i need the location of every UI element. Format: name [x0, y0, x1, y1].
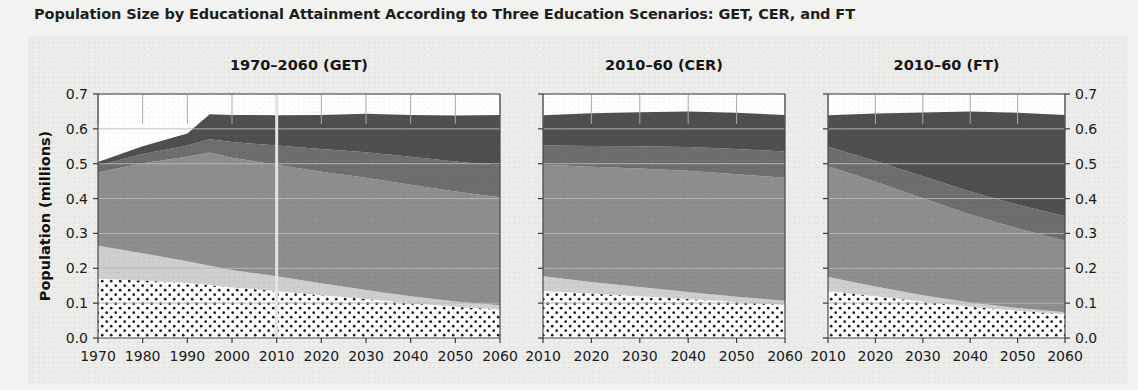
x-tick-label: 1990: [170, 348, 206, 364]
y-tick-label-right: 0.6: [1075, 121, 1097, 137]
panel-ft-title: 2010–60 (FT): [894, 57, 1000, 73]
y-tick-label-right: 0.5: [1075, 156, 1097, 172]
panel-cer-title: 2010–60 (CER): [605, 57, 723, 73]
panel-cer-group: 2010202020302040205020602010–60 (CER): [525, 57, 803, 364]
x-tick-label: 2040: [670, 348, 706, 364]
x-tick-label: 2060: [767, 348, 803, 364]
x-tick-label: 2060: [482, 348, 518, 364]
x-tick-label: 2040: [952, 348, 988, 364]
figure-title: Population Size by Educational Attainmen…: [34, 6, 855, 22]
y-tick-label-right: 0.2: [1075, 260, 1097, 276]
panel-get-group: 1970198019902000201020202030204020502060…: [80, 57, 518, 364]
y-tick-label-left: 0.1: [66, 295, 88, 311]
x-tick-label: 2060: [1047, 348, 1083, 364]
panel-cer-band-tertiary: [543, 111, 785, 151]
x-tick-label: 2000: [214, 348, 250, 364]
y-tick-label-left: 0.3: [66, 225, 88, 241]
x-tick-label: 2010: [259, 348, 295, 364]
y-tick-label-right: 0.4: [1075, 191, 1097, 207]
y-tick-label-right: 0.1: [1075, 295, 1097, 311]
figure-root: Population Size by Educational Attainmen…: [0, 0, 1138, 390]
x-tick-label: 2020: [574, 348, 610, 364]
x-tick-label: 1980: [125, 348, 161, 364]
y-tick-label-left: 0.2: [66, 260, 88, 276]
x-tick-label: 2040: [393, 348, 429, 364]
panel-ft-group: 2010202020302040205020602010–60 (FT): [810, 57, 1083, 364]
x-tick-label: 2030: [622, 348, 658, 364]
x-tick-label: 1970: [80, 348, 116, 364]
y-tick-label-left: 0.0: [66, 330, 88, 346]
chart-surface: 1970198019902000201020202030204020502060…: [28, 36, 1128, 384]
y-tick-label-left: 0.5: [66, 156, 88, 172]
x-tick-label: 2010: [525, 348, 561, 364]
x-tick-label: 2030: [348, 348, 384, 364]
y-tick-label-left: 0.4: [66, 191, 88, 207]
x-tick-label: 2050: [1000, 348, 1036, 364]
x-tick-label: 2050: [438, 348, 474, 364]
x-tick-label: 2020: [858, 348, 894, 364]
x-tick-label: 2020: [304, 348, 340, 364]
stacked-area-chart: 1970198019902000201020202030204020502060…: [28, 36, 1128, 384]
y-tick-label-right: 0.7: [1075, 86, 1097, 102]
panel-get-title: 1970–2060 (GET): [230, 57, 368, 73]
y-tick-label-right: 0.0: [1075, 330, 1097, 346]
x-tick-label: 2010: [810, 348, 846, 364]
y-tick-label-right: 0.3: [1075, 225, 1097, 241]
panel-cer-band-secondary: [543, 165, 785, 301]
y-tick-label-left: 0.6: [66, 121, 88, 137]
y-tick-label-left: 0.7: [66, 86, 88, 102]
y-axis-title: Population (millions): [37, 131, 53, 301]
x-tick-label: 2050: [719, 348, 755, 364]
x-tick-label: 2030: [905, 348, 941, 364]
